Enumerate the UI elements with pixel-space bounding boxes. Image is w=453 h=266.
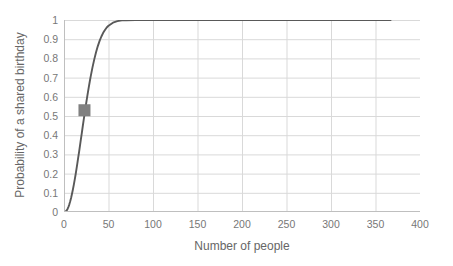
y-tick-label: 0.5 <box>2 111 58 122</box>
plot-area <box>64 20 420 212</box>
highlight-square-marker <box>78 104 90 116</box>
x-tick-label: 250 <box>267 219 307 230</box>
y-tick-label: 0.2 <box>2 169 58 180</box>
x-tick-label: 150 <box>178 219 218 230</box>
x-tick-label: 300 <box>311 219 351 230</box>
x-tick-label: 50 <box>89 219 129 230</box>
y-tick-label: 0.4 <box>2 130 58 141</box>
x-tick-label: 200 <box>222 219 262 230</box>
x-axis-title: Number of people <box>64 239 420 253</box>
x-tick-label: 400 <box>400 219 440 230</box>
y-tick-label: 0.6 <box>2 92 58 103</box>
x-tick-label: 350 <box>356 219 396 230</box>
plot-svg <box>64 20 420 212</box>
y-tick-label: 0.7 <box>2 73 58 84</box>
y-tick-label: 0 <box>2 207 58 218</box>
x-tick-label: 0 <box>44 219 84 230</box>
y-tick-label: 0.3 <box>2 149 58 160</box>
y-tick-label: 1 <box>2 15 58 26</box>
x-axis-tick-labels: 050100150200250300350400 <box>0 219 453 233</box>
y-tick-label: 0.9 <box>2 34 58 45</box>
birthday-problem-chart: Probability of a shared birthday 00.10.2… <box>0 0 453 266</box>
data-point-markers <box>78 104 90 116</box>
y-tick-label: 0.1 <box>2 188 58 199</box>
y-tick-label: 0.8 <box>2 53 58 64</box>
x-tick-label: 100 <box>133 219 173 230</box>
